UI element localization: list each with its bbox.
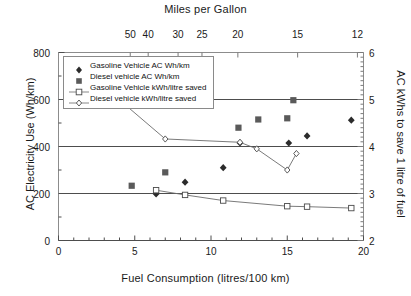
top-axis-tick-label: 20 <box>232 29 243 40</box>
series-0 <box>153 117 355 198</box>
y-axis-tick-label-right: 4 <box>369 141 375 152</box>
data-point <box>235 125 241 131</box>
data-point <box>129 183 135 189</box>
data-point <box>285 203 290 208</box>
y-axis-tick-label-left: 400 <box>18 141 50 152</box>
legend-label: Gasoline Vehicle AC Wh/km <box>90 61 190 71</box>
data-point <box>182 179 189 186</box>
data-point <box>290 97 296 103</box>
top-axis-tick-label: 15 <box>292 29 303 40</box>
legend-item-gasoline-ac: Gasoline Vehicle AC Wh/km <box>68 61 207 71</box>
data-point <box>304 204 309 209</box>
data-point <box>348 117 355 124</box>
data-point <box>255 116 261 122</box>
top-axis-tick-label: 50 <box>125 29 136 40</box>
data-point <box>162 169 168 175</box>
open-square-line-icon <box>68 83 90 93</box>
open-diamond-line-icon <box>68 94 90 104</box>
legend-item-gasoline-kwh: Gasoline Vehicle kWh/litre saved <box>68 83 207 93</box>
top-axis-tick-label: 12 <box>352 29 363 40</box>
data-point <box>285 167 290 173</box>
y-axis-tick-label-right: 5 <box>369 94 375 105</box>
x-axis-tick-label: 20 <box>358 246 369 257</box>
series-1 <box>129 97 297 189</box>
filled-diamond-icon <box>68 61 90 71</box>
top-axis-tick-label: 25 <box>196 29 207 40</box>
legend-label: Gasoline Vehicle kWh/litre saved <box>90 83 207 93</box>
chart-figure: Miles per Gallon Fuel Consumption (litre… <box>0 0 411 296</box>
y-axis-tick-label-right: 3 <box>369 188 375 199</box>
x-axis-tick-label: 10 <box>205 246 216 257</box>
x-axis-tick-label: 5 <box>132 246 138 257</box>
top-axis-tick-label: 40 <box>143 29 154 40</box>
data-point <box>182 192 187 197</box>
legend-label: Diesel vehicle AC Wh/km <box>90 72 179 82</box>
data-point <box>294 150 299 156</box>
legend-label: Diesel vehicle kWh/litre saved <box>90 94 196 104</box>
data-point <box>304 132 311 139</box>
x-axis-tick-label: 15 <box>282 246 293 257</box>
series-2 <box>153 188 354 211</box>
chart-legend: Gasoline Vehicle AC Wh/km Diesel vehicle… <box>63 56 214 109</box>
x-axis-tick-label: 0 <box>56 246 62 257</box>
y-axis-tick-label-right: 6 <box>369 47 375 58</box>
series-3 <box>123 102 299 173</box>
filled-square-icon <box>68 72 90 82</box>
data-point <box>284 115 290 121</box>
y-axis-tick-label-left: 800 <box>18 47 50 58</box>
y-axis-tick-label-left: 200 <box>18 188 50 199</box>
y-axis-tick-label-right: 2 <box>369 235 375 246</box>
data-point <box>221 198 226 203</box>
data-point <box>153 188 158 193</box>
data-point <box>349 205 354 210</box>
legend-item-diesel-ac: Diesel vehicle AC Wh/km <box>68 72 207 82</box>
top-axis-tick-label: 30 <box>173 29 184 40</box>
y-axis-tick-label-left: 600 <box>18 94 50 105</box>
y-axis-tick-label-left: 0 <box>18 235 50 246</box>
data-point <box>220 164 227 171</box>
data-point <box>285 139 292 146</box>
legend-item-diesel-kwh: Diesel vehicle kWh/litre saved <box>68 94 207 104</box>
